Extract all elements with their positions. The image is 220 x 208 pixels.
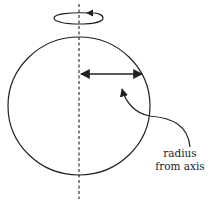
radius-label-line1: radius [150, 147, 210, 160]
curved-arrow-icon [122, 89, 190, 147]
rotating-sphere-diagram [0, 0, 220, 208]
radius-label-line2: from axis [150, 160, 210, 173]
